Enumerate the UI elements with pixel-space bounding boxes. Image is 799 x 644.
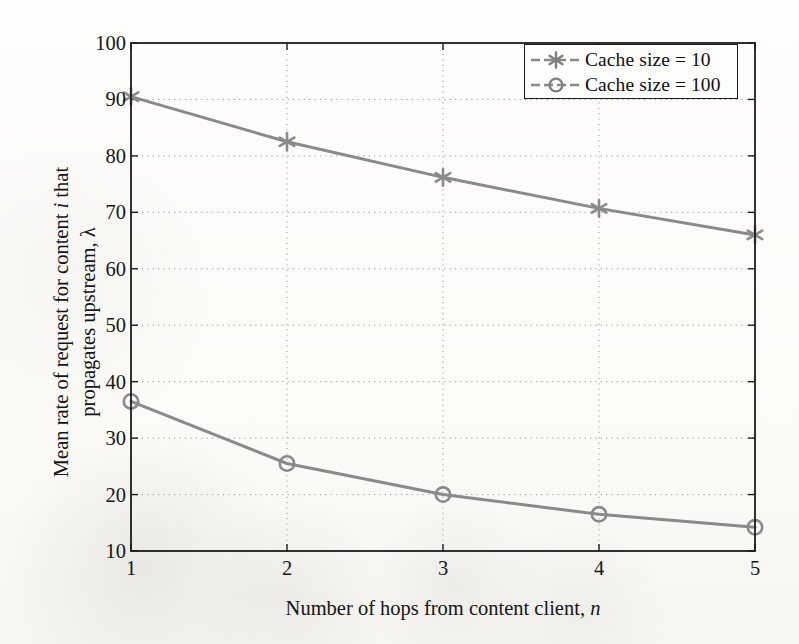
legend-entry-cache-10: Cache size = 10: [525, 47, 737, 72]
y-axis-tick-labels: 102030405060708090100: [74, 0, 126, 644]
x-tick-label: 5: [735, 557, 775, 580]
grid-lines: [131, 43, 755, 551]
legend-entry-cache-100: Cache size = 100: [525, 72, 737, 97]
x-tick-label: 3: [423, 557, 463, 580]
legend-label-cache-10: Cache size = 10: [582, 49, 711, 71]
y-tick-label: 60: [80, 257, 126, 280]
y-tick-label: 80: [80, 144, 126, 167]
figure-container: 102030405060708090100 12345 Mean rate of…: [0, 0, 799, 644]
y-tick-label: 30: [80, 427, 126, 450]
legend-label-cache-100: Cache size = 100: [582, 74, 721, 96]
y-tick-label: 40: [80, 370, 126, 393]
asterisk-marker-icon: [530, 49, 582, 71]
y-tick-label: 20: [80, 483, 126, 506]
y-tick-label: 70: [80, 201, 126, 224]
x-axis-label: Number of hops from content client, n: [131, 597, 755, 620]
y-tick-label: 90: [80, 88, 126, 111]
chart-legend: Cache size = 10 Cache size = 100: [524, 44, 738, 99]
series-1: [124, 88, 763, 243]
y-tick-label: 50: [80, 314, 126, 337]
x-tick-label: 4: [579, 557, 619, 580]
x-tick-label: 2: [267, 557, 307, 580]
y-tick-label: 100: [80, 32, 126, 55]
x-axis-tick-labels: 12345: [0, 557, 799, 587]
x-tick-label: 1: [111, 557, 151, 580]
circle-marker-icon: [530, 74, 582, 96]
